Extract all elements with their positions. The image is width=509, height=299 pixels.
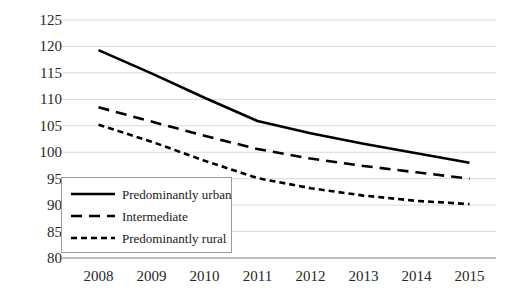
x-axis-tick-label: 2008 bbox=[71, 269, 127, 284]
x-axis-tick-label: 2013 bbox=[336, 269, 392, 284]
legend-label: Predominantly rural bbox=[122, 232, 226, 245]
x-axis-tick-label: 2014 bbox=[389, 269, 445, 284]
chart-legend: Predominantly urbanIntermediatePredomina… bbox=[61, 177, 232, 253]
x-axis-tick-label: 2012 bbox=[283, 269, 339, 284]
legend-item: Predominantly rural bbox=[62, 227, 231, 249]
x-axis-tick-label: 2015 bbox=[442, 269, 498, 284]
legend-swatch-solid bbox=[69, 188, 117, 200]
x-axis: 20082009201020112012201320142015 bbox=[0, 0, 509, 299]
legend-item: Intermediate bbox=[62, 205, 231, 227]
line-chart: 12512011511010510095908580 2008200920102… bbox=[0, 0, 509, 299]
x-axis-tick-label: 2011 bbox=[230, 269, 286, 284]
legend-item: Predominantly urban bbox=[62, 183, 231, 205]
x-axis-tick-label: 2009 bbox=[124, 269, 180, 284]
legend-label: Predominantly urban bbox=[122, 188, 231, 201]
legend-label: Intermediate bbox=[122, 210, 188, 223]
legend-swatch-dotted bbox=[69, 232, 117, 244]
legend-swatch-dashed bbox=[69, 210, 117, 222]
x-axis-tick-label: 2010 bbox=[177, 269, 233, 284]
